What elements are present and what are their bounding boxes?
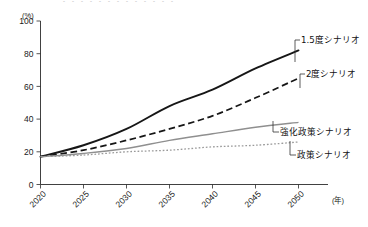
x-axis-tick-label: 2035: [156, 189, 177, 210]
series-group: [41, 50, 299, 156]
x-axis-tick-label: 2040: [199, 189, 220, 210]
annotation-2-degree: 2度シナリオ: [306, 68, 356, 79]
annotation-enhanced-policy: 強化政策シナリオ: [280, 126, 352, 137]
y-axis-tick-label: 40: [24, 114, 34, 124]
y-axis-tick-label: 0: [29, 180, 34, 190]
x-axis-unit-label: (年): [332, 195, 344, 205]
series-line-enhanced-policy: [41, 122, 299, 156]
leader-line-enhanced-policy: [273, 121, 279, 132]
y-axis-tick-label: 60: [24, 82, 34, 92]
annotation-policy: 政策シナリオ: [297, 149, 351, 160]
x-tick-group: 2020202520302035204020452050: [27, 185, 306, 210]
axis-group: [41, 21, 329, 185]
annotation-1-5-degree: 1.5度シナリオ: [301, 34, 360, 45]
y-axis-unit-label: (%): [22, 11, 34, 20]
x-axis-tick-label: 2030: [113, 189, 134, 210]
x-axis-tick-label: 2025: [70, 189, 91, 210]
y-axis-tick-label: 20: [24, 147, 34, 157]
leader-line-group: [273, 40, 305, 155]
y-tick-group: 020406080100: [19, 16, 40, 190]
y-axis-tick-label: 80: [24, 49, 34, 59]
x-axis-tick-label: 2050: [285, 189, 306, 210]
x-axis-tick-label: 2020: [27, 189, 48, 210]
leader-line-policy: [290, 141, 296, 155]
leader-line-2-degree: [300, 74, 305, 88]
line-chart-svg: 020406080100 202020252030203520402045205…: [0, 0, 368, 227]
chart-container: ・・・・・・・・・・・・・ 020406080100 2020202520302…: [0, 0, 368, 227]
x-axis-tick-label: 2045: [242, 189, 263, 210]
